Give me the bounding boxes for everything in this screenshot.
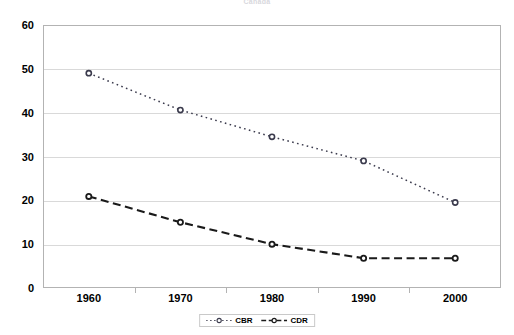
data-point	[269, 242, 274, 247]
x-axis-tick	[409, 288, 410, 293]
y-axis-tick-label: 0	[0, 283, 34, 293]
series-layer	[43, 25, 501, 288]
x-axis-tick	[135, 288, 136, 293]
x-axis-tick-label: 1960	[77, 292, 101, 304]
y-axis-tick-label: 20	[0, 195, 34, 205]
x-axis-tick-label: 1990	[351, 292, 375, 304]
data-point	[361, 158, 366, 163]
line-chart: Canada 0102030405060 1960197019801990200…	[0, 0, 514, 335]
x-axis: 19601970198019902000	[43, 292, 501, 312]
x-axis-tick-label: 2000	[443, 292, 467, 304]
chart-legend: CBR CDR	[199, 314, 315, 327]
data-point	[269, 134, 274, 139]
x-axis-tick-label: 1980	[260, 292, 284, 304]
legend-label-cdr: CDR	[291, 317, 308, 325]
x-axis-tick-label: 1970	[168, 292, 192, 304]
data-point	[178, 107, 183, 112]
data-point	[361, 256, 366, 261]
legend-item-cdr[interactable]: CDR	[262, 316, 308, 325]
x-axis-tick	[226, 288, 227, 293]
y-axis-tick-label: 60	[0, 20, 34, 30]
data-point	[453, 256, 458, 261]
y-axis: 0102030405060	[0, 0, 38, 335]
y-axis-tick-label: 50	[0, 64, 34, 74]
y-axis-tick-label: 30	[0, 152, 34, 162]
x-axis-tick	[318, 288, 319, 293]
data-point	[178, 220, 183, 225]
legend-swatch-cbr	[206, 316, 232, 325]
series-line-cdr	[89, 196, 455, 258]
y-axis-tick-label: 10	[0, 239, 34, 249]
chart-title: Canada	[0, 0, 514, 6]
legend-item-cbr[interactable]: CBR	[206, 316, 252, 325]
data-point	[86, 194, 91, 199]
data-point	[86, 71, 91, 76]
data-point	[453, 200, 458, 205]
legend-label-cbr: CBR	[235, 317, 252, 325]
y-axis-tick-label: 40	[0, 108, 34, 118]
legend-swatch-cdr	[262, 316, 288, 325]
